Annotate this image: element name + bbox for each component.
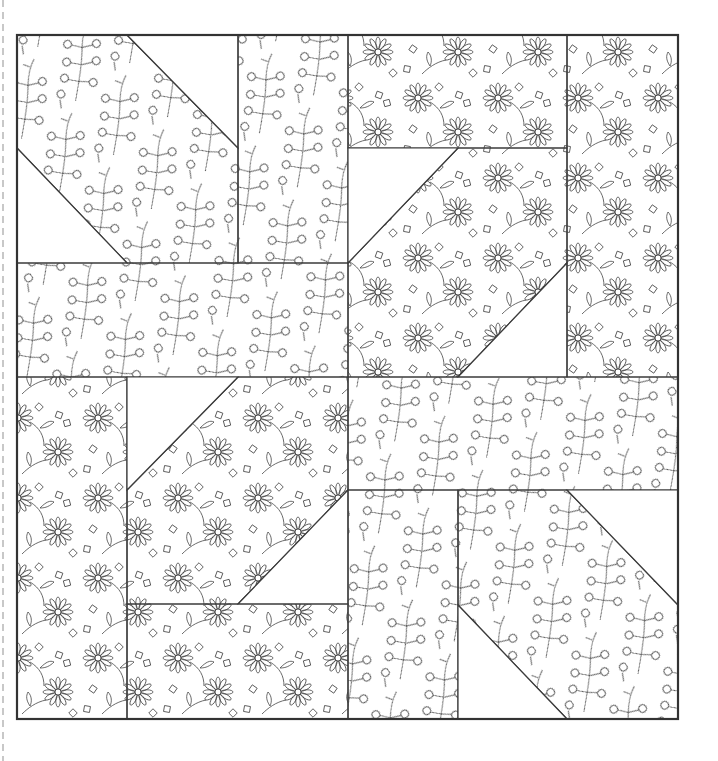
quilt-piece-tr-rect-top (348, 35, 567, 148)
quilt-piece-br-rect-left (348, 490, 458, 719)
quilt-pieces (17, 35, 678, 719)
quilt-piece-tr-rect-right (567, 35, 678, 377)
quilt-piece-br-rect-top (348, 377, 678, 490)
quilt-piece-tl-rect-bottom (17, 263, 348, 377)
quilt-piece-bl-rect-left (17, 377, 127, 719)
quilt-block-coloring-page (0, 0, 718, 761)
quilt-piece-bl-rect-bottom (127, 604, 348, 719)
quilt-piece-tl-rect-right (238, 35, 348, 263)
